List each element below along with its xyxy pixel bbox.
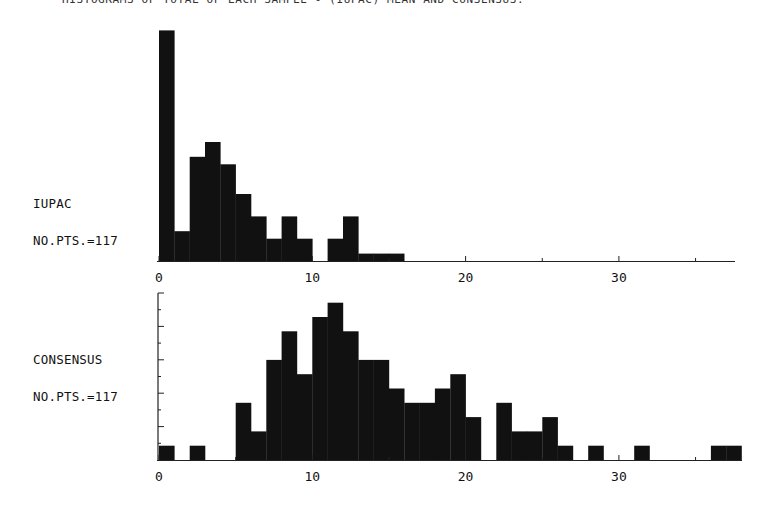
x-tick-label: 10: [304, 270, 320, 285]
histogram-bar: [220, 164, 236, 261]
histogram-bar: [634, 446, 650, 460]
histogram-bar: [527, 431, 543, 460]
histogram-bar: [312, 317, 328, 460]
histogram-bar: [236, 403, 252, 460]
x-tick-label: 20: [458, 469, 474, 484]
histogram-bar: [282, 216, 298, 261]
histogram-bar: [251, 431, 267, 460]
histogram-bar: [343, 331, 359, 460]
histogram-bar: [726, 446, 742, 460]
histogram-bar: [558, 446, 574, 460]
histogram-bar: [328, 303, 344, 460]
histogram-bar: [159, 446, 175, 460]
histogram-bar: [236, 194, 252, 261]
histogram-bar: [190, 157, 206, 261]
histogram-bar: [542, 417, 558, 460]
histogram-bar: [374, 360, 390, 460]
histogram-bar: [297, 374, 313, 460]
histogram-bar: [358, 360, 374, 460]
histogram-bar: [282, 331, 298, 460]
histogram-bar: [374, 254, 390, 261]
x-tick-label: 30: [611, 469, 627, 484]
histogram-bar: [450, 374, 466, 460]
histogram-bar: [496, 403, 512, 460]
histogram-bar: [420, 403, 436, 460]
x-tick-label: 30: [611, 270, 627, 285]
histogram-bar: [512, 431, 528, 460]
histogram-bar: [205, 142, 221, 261]
x-tick-label: 0: [155, 270, 163, 285]
histogram-canvas: 0102030 0102030: [0, 0, 767, 511]
histogram-bar: [711, 446, 727, 460]
histogram-bar: [266, 239, 282, 261]
histogram-bar: [389, 254, 405, 261]
x-tick-label: 10: [304, 469, 320, 484]
lower-histogram-consensus: 0102030: [155, 293, 742, 484]
histogram-bar: [343, 216, 359, 261]
histogram-bar: [435, 389, 451, 461]
histogram-bar: [328, 239, 344, 261]
histogram-bar: [466, 417, 482, 460]
histogram-bar: [266, 360, 282, 460]
histogram-bar: [174, 231, 190, 261]
histogram-bar: [251, 216, 267, 261]
upper-histogram-iupac: 0102030: [155, 30, 735, 285]
histogram-bar: [404, 403, 420, 460]
histogram-bar: [389, 389, 405, 461]
histogram-bar: [297, 239, 313, 261]
x-tick-label: 20: [458, 270, 474, 285]
histogram-bar: [159, 30, 175, 261]
histogram-bar: [190, 446, 206, 460]
histogram-bar: [358, 254, 374, 261]
x-tick-label: 0: [155, 469, 163, 484]
histogram-bar: [588, 446, 604, 460]
